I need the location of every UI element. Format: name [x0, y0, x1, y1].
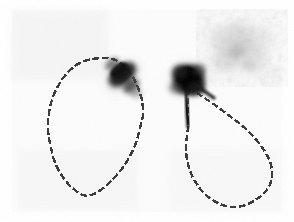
scintigram-canvas	[0, 0, 294, 222]
scan-viewport: scintigram left-region right-region left…	[0, 0, 294, 222]
film-grain	[0, 0, 294, 222]
